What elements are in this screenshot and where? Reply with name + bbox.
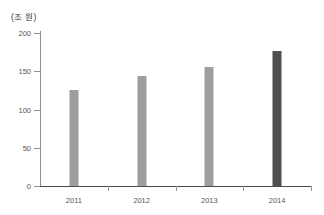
x-tick-mark	[176, 186, 177, 191]
bar-2012	[137, 76, 146, 186]
y-tick-label: 150	[18, 67, 31, 76]
bar-2014	[273, 51, 282, 186]
y-tick-label: 100	[18, 105, 31, 114]
y-tick-mark	[34, 186, 40, 187]
x-tick-mark	[243, 186, 244, 191]
x-tick-label: 2014	[269, 196, 286, 205]
bar-2011	[69, 90, 78, 186]
x-tick-label: 2011	[66, 196, 82, 205]
x-tick-mark	[311, 186, 312, 191]
x-tick-label: 2013	[201, 196, 218, 205]
y-tick-mark	[34, 71, 40, 72]
y-tick-mark	[34, 110, 40, 111]
y-tick-label: 50	[23, 143, 31, 152]
y-tick-mark	[34, 148, 40, 149]
x-tick-label: 2012	[133, 196, 150, 205]
x-tick-mark	[108, 186, 109, 191]
unit-label: (조 원)	[11, 10, 37, 22]
y-tick-label: 200	[18, 29, 31, 38]
y-tick-mark	[34, 33, 40, 34]
plot-area: 050100150200 2011201220132014	[40, 33, 311, 186]
y-tick-label: 0	[27, 182, 31, 191]
bar-2013	[205, 67, 214, 186]
bar-chart: (조 원) 050100150200 2011201220132014	[0, 0, 324, 215]
